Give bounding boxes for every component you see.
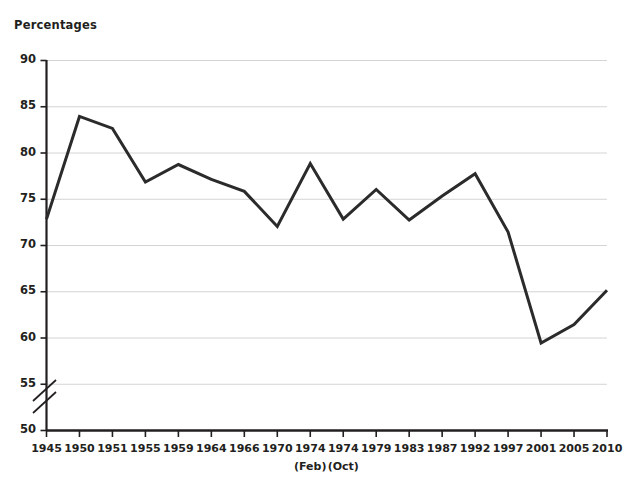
y-axis-tick-label: 55 bbox=[10, 378, 36, 390]
x-axis-tick-label: 1997 bbox=[493, 443, 524, 454]
y-axis-tick-label: 90 bbox=[10, 54, 36, 66]
x-axis-tick-label: 1983 bbox=[394, 443, 425, 454]
x-axis-tick-label: 1950 bbox=[64, 443, 95, 454]
x-axis-tick-label: 1964 bbox=[196, 443, 227, 454]
y-axis-tick-label: 60 bbox=[10, 332, 36, 344]
data-series-line bbox=[47, 116, 608, 343]
y-axis-tick-label: 70 bbox=[10, 239, 36, 251]
x-axis-tick-label: 2001 bbox=[526, 443, 557, 454]
y-axis-tick-label: 50 bbox=[10, 424, 36, 436]
x-axis-tick-label: 1974 bbox=[295, 443, 326, 454]
x-axis-tick-label: 1970 bbox=[262, 443, 293, 454]
x-axis-tick-label: 1987 bbox=[427, 443, 458, 454]
x-axis-tick-label: 2010 bbox=[592, 443, 623, 454]
chart-container: Percentages 505560657075808590 194519501… bbox=[0, 0, 635, 493]
y-axis-tick-label: 75 bbox=[10, 193, 36, 205]
x-axis-tick-label: 1979 bbox=[361, 443, 392, 454]
x-axis-sub-label: (Oct) bbox=[328, 461, 359, 472]
y-axis-tick-label: 80 bbox=[10, 147, 36, 159]
y-axis-tick-label: 85 bbox=[10, 100, 36, 112]
x-axis-tick-label: 1959 bbox=[163, 443, 194, 454]
x-axis-tick-label: 2005 bbox=[559, 443, 590, 454]
x-axis-tick-label: 1992 bbox=[460, 443, 491, 454]
gridlines-group bbox=[47, 61, 608, 385]
x-axis-tick-label: 1974 bbox=[328, 443, 359, 454]
y-axis-tick-label: 65 bbox=[10, 285, 36, 297]
x-axis-tick-label: 1951 bbox=[97, 443, 128, 454]
x-axis-sub-label: (Feb) bbox=[294, 461, 326, 472]
x-axis-tick-label: 1945 bbox=[31, 443, 62, 454]
chart-plot-area bbox=[0, 0, 635, 493]
x-axis-tick-label: 1955 bbox=[130, 443, 161, 454]
x-axis-tick-label: 1966 bbox=[229, 443, 260, 454]
